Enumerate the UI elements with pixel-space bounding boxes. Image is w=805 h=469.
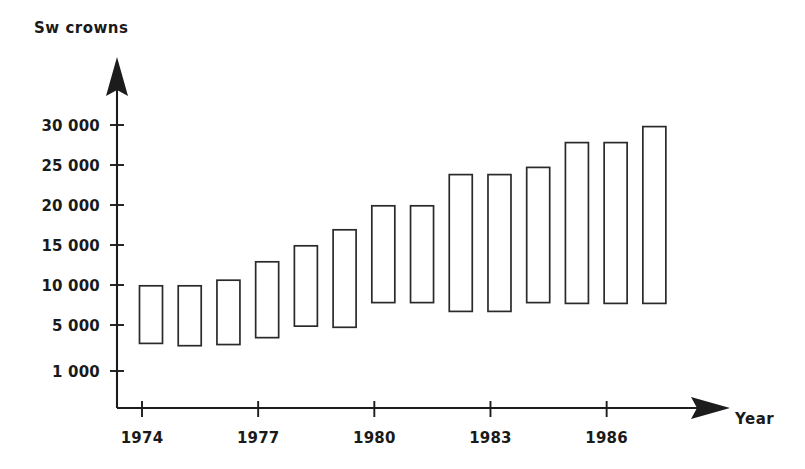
x-axis-title: Year (734, 410, 774, 428)
range-bar-1984: 1984: 7800–24700 (527, 167, 550, 302)
x-tick-label-1980: 1980 (353, 429, 396, 447)
range-bar-1974: 1974: 3400–9900 (140, 286, 163, 344)
y-tick-label-30000: 30 000 (41, 117, 100, 135)
range-bar-1985: 1985: 7700–27800 (565, 143, 588, 304)
range-bar-1981: 1981: 7800–19900 (411, 206, 434, 303)
range-bar-1978: 1978: 4900–14900 (294, 246, 317, 326)
range-bar-1976: 1976: 3300–10600 (217, 280, 240, 344)
range-bar-1979: 1979: 4800–16900 (333, 230, 356, 327)
y-axis-title: Sw crowns (34, 19, 128, 37)
range-bar-1986: 1986: 7700–27800 (604, 143, 627, 304)
range-bar-1987: 1987: 7700–29800 (643, 127, 666, 304)
x-tick-label-1983: 1983 (469, 429, 512, 447)
y-tick-label-20000: 20 000 (41, 197, 100, 215)
x-tick-label-1986: 1986 (585, 429, 628, 447)
y-tick-label-15000: 15 000 (41, 237, 100, 255)
y-tick-label-25000: 25 000 (41, 157, 100, 175)
range-bar-1980: 1980: 7800–19900 (372, 206, 395, 303)
range-bar-1975: 1975: 3200–9900 (178, 286, 201, 346)
range-bar-1977: 1977: 3900–12900 (256, 262, 279, 338)
range-bar-1983: 1983: 6700–23800 (488, 175, 511, 312)
range-bar-1982: 1982: 6700–23800 (449, 175, 472, 312)
y-axis-ticks: 30 00025 00020 00015 00010 0005 0001 000 (41, 117, 124, 381)
bars-layer: 1974: 3400–99001975: 3200–99001976: 3300… (140, 127, 666, 346)
y-tick-label-10000: 10 000 (41, 277, 100, 295)
y-tick-label-5000: 5 000 (52, 317, 100, 335)
x-tick-label-1974: 1974 (121, 429, 164, 447)
range-bar-chart: Sw crowns Year 30 00025 00020 00015 0001… (0, 0, 805, 469)
y-tick-label-1000: 1 000 (52, 363, 100, 381)
chart-container: Sw crowns Year 30 00025 00020 00015 0001… (0, 0, 805, 469)
x-tick-label-1977: 1977 (237, 429, 280, 447)
